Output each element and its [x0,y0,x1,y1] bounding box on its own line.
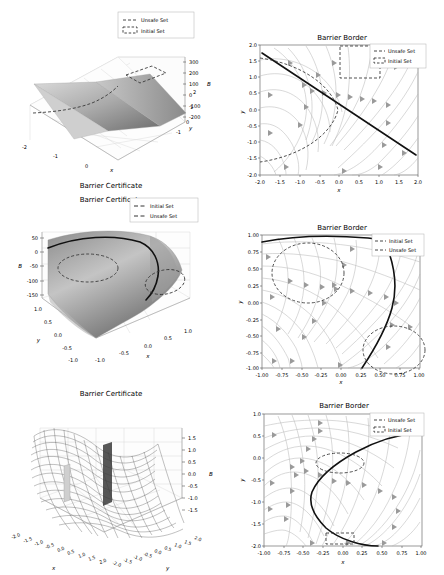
legend-label-initial: Initial Set [388,427,412,433]
svg-text:-0.75: -0.75 [246,350,259,356]
legend-label-initial: Initial Set [389,238,413,244]
zaxis-label: B [18,263,22,269]
legend-label-unsafe: Unsafe Set [141,17,168,23]
yaxis-label: y [237,300,244,305]
panel-title-bot-right: Barrier Border [319,402,369,410]
svg-text:1.0: 1.0 [249,74,257,80]
svg-text:0.5: 0.5 [44,319,52,325]
svg-text:50: 50 [32,235,38,241]
svg-text:0.25: 0.25 [355,372,366,378]
legend-mid-left[interactable]: Initial Set Unsafe Set [130,198,198,222]
svg-text:-1.5: -1.5 [123,557,133,565]
svg-text:-2.0: -2.0 [255,179,265,185]
svg-text:0.0: 0.0 [57,546,66,553]
svg-text:0.5: 0.5 [249,90,257,96]
svg-text:0.0: 0.0 [54,332,62,338]
svg-text:-2.0: -2.0 [247,172,257,178]
svg-text:0.00: 0.00 [248,300,259,306]
svg-text:0: 0 [35,249,38,255]
svg-text:x: x [109,167,114,173]
legend-bot-right[interactable]: Unsafe Set Initial Set [370,413,424,436]
yaxis-label: y [239,478,246,483]
legend-label-unsafe: Unsafe Set [389,247,416,253]
panel-mid-right: Barrier Border [222,190,444,385]
svg-text:0.50: 0.50 [248,266,259,272]
legend-label-unsafe: Unsafe Set [388,48,415,54]
legend-mid-right[interactable]: Initial Set Unsafe Set [372,234,424,256]
svg-text:0.0: 0.0 [154,548,163,555]
svg-text:-0.5: -0.5 [315,179,325,185]
svg-text:0.5: 0.5 [253,433,261,439]
svg-text:0.75: 0.75 [248,249,259,255]
plot-area-bot-right: 1.0 0.5 0.0 -0.5 -1.0 -1.5 -2.0 y -1.00 … [239,411,427,565]
yaxis-ticks: -2.0 -1.5 -1.0 -0.5 0.0 0.5 1.0 1.5 2.0 … [112,535,203,572]
svg-text:-1.0: -1.0 [247,139,257,145]
svg-text:-2.0: -2.0 [251,543,261,549]
panel-top-left: 300 200 100 0 -100 -200 B -2 -1 0 x -1 0… [0,0,222,195]
panel-top-right: Barrier Border [222,0,444,195]
svg-text:0.0: 0.0 [335,179,343,185]
svg-text:2.0: 2.0 [414,179,422,185]
axes3d-bot-left: 1.5 1.0 0.5 0.0 -0.5 -1.0 -1.5 B -2.0 -1… [11,428,213,572]
svg-text:-0.5: -0.5 [188,483,198,489]
panel-title-top-left: Barrier Certificate [80,182,142,190]
zaxis-ticks: 300 200 100 0 -100 -200 B [183,59,211,120]
svg-text:0: 0 [189,92,192,98]
svg-text:-0.5: -0.5 [143,551,153,559]
panel-title-mid-right: Barrier Border [317,224,367,232]
zaxis-ticks: 50 0 -50 -100 -150 B [18,235,44,298]
plot-area-mid-right: 1.00 0.75 0.50 0.25 0.00 -0.25 -0.50 -0.… [237,232,425,385]
svg-text:0.0: 0.0 [188,471,196,477]
svg-text:0.5: 0.5 [355,179,363,185]
svg-text:1.0: 1.0 [375,179,383,185]
svg-text:-0.5: -0.5 [62,345,72,351]
svg-text:-0.5: -0.5 [119,350,129,356]
svg-text:-200: -200 [189,114,200,120]
svg-text:B: B [207,81,211,87]
svg-text:0.75: 0.75 [394,372,405,378]
svg-text:0.75: 0.75 [396,550,407,556]
legend-top-left[interactable]: Unsafe Set Initial Set [118,12,194,38]
legend-label-initial: Initial Set [141,28,165,34]
xaxis-ticks: -1.00 -0.75 -0.50 -0.25 0.00 0.25 0.50 0… [258,546,427,565]
surface-fold [103,442,112,506]
svg-text:0.25: 0.25 [356,550,367,556]
svg-text:100: 100 [189,81,199,87]
svg-text:1.5: 1.5 [184,539,193,546]
svg-text:1.5: 1.5 [249,58,257,64]
svg-text:-0.25: -0.25 [246,317,259,323]
svg-text:-1: -1 [176,129,181,135]
svg-text:-2: -2 [22,144,27,150]
svg-text:-0.25: -0.25 [315,372,328,378]
svg-text:1.0: 1.0 [188,447,196,453]
svg-text:2.0: 2.0 [249,42,257,48]
svg-text:-1.0: -1.0 [34,539,44,547]
svg-text:-2.0: -2.0 [11,532,21,540]
panel-bot-right: Barrier Border [222,380,444,575]
svg-text:0.5: 0.5 [164,335,172,341]
svg-text:-1.0: -1.0 [95,357,105,363]
svg-text:-0.50: -0.50 [297,550,310,556]
svg-text:0.5: 0.5 [164,545,173,552]
svg-text:1.00: 1.00 [413,372,424,378]
xaxis-ticks: -2.0 -1.5 -1.0 -0.5 0.0 0.5 1.0 1.5 2.0 … [11,532,108,571]
panel-title-top-right: Barrier Border [317,34,367,42]
svg-text:300: 300 [189,59,199,65]
svg-text:-1.0: -1.0 [68,357,78,363]
svg-text:-150: -150 [27,292,38,298]
yaxis-ticks: 1.0 0.5 0.0 -0.5 -1.0 -1.5 -2.0 y [239,411,264,549]
svg-text:-1.0: -1.0 [188,495,198,501]
svg-text:1.00: 1.00 [415,550,426,556]
xaxis-label: x [51,565,56,571]
svg-text:1.0: 1.0 [184,328,192,334]
panel-bot-left: Barrier Certificate [0,380,222,575]
svg-text:-1.5: -1.5 [275,179,285,185]
panel-title-bot-left: Barrier Certificate [80,390,142,398]
svg-text:-0.5: -0.5 [251,477,261,483]
axes3d-top-left: 300 200 100 0 -100 -200 B -2 -1 0 x -1 0… [22,12,211,190]
yaxis-label: y [165,565,170,572]
legend-top-right[interactable]: Unsafe Set Initial Set [370,44,426,68]
figure-sheet: 300 200 100 0 -100 -200 B -2 -1 0 x -1 0… [0,0,444,575]
legend-label-unsafe: Unsafe Set [388,417,415,423]
svg-text:2.0: 2.0 [194,535,203,542]
